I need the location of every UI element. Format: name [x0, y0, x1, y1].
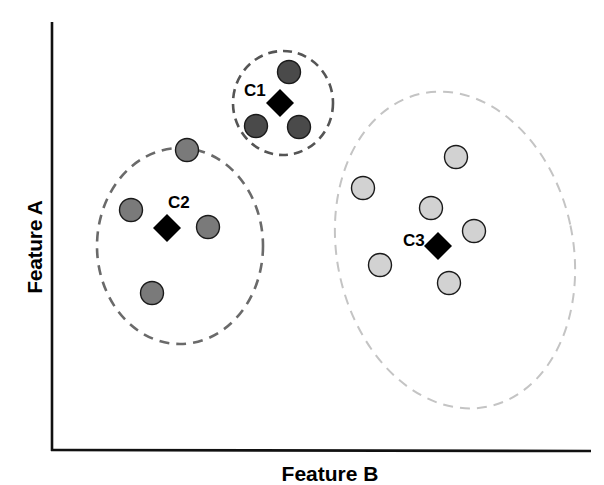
cluster-label-c3: C3: [403, 231, 425, 250]
centroid-diamond-c2: [153, 214, 181, 242]
y-axis-label: Feature A: [20, 192, 50, 302]
cluster-label-c1: C1: [244, 81, 266, 100]
centroid-diamond-c1: [266, 89, 294, 117]
data-point-c1: [288, 116, 311, 139]
data-point-c3: [463, 220, 486, 243]
cluster-boundary-c3: [306, 69, 603, 431]
data-point-c3: [369, 254, 392, 277]
data-point-c3: [445, 146, 468, 169]
data-point-c2: [176, 139, 199, 162]
data-point-c1: [278, 61, 301, 84]
x-axis: [51, 450, 591, 451]
centroid-diamond-c3: [424, 232, 452, 260]
data-point-c2: [120, 199, 143, 222]
data-point-c3: [438, 272, 461, 295]
data-point-c2: [141, 282, 164, 305]
data-point-c3: [352, 177, 375, 200]
cluster-boundary-c2: [97, 148, 263, 344]
data-point-c2: [197, 216, 220, 239]
data-point-c3: [420, 197, 443, 220]
cluster-label-c2: C2: [168, 193, 190, 212]
data-point-c1: [245, 115, 268, 138]
x-axis-label: Feature B: [200, 462, 460, 485]
